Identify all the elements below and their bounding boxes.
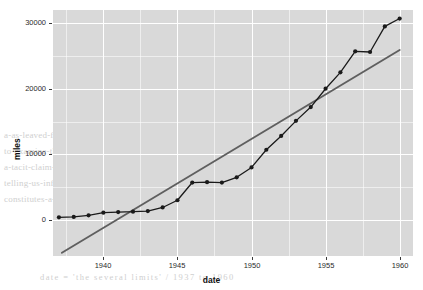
data-point [175,198,179,202]
trend-line [62,50,400,253]
data-point [86,213,90,217]
x-axis-title: date [0,275,423,285]
data-point [249,165,253,169]
data-point [398,16,402,20]
data-point [264,148,268,152]
data-point [205,180,209,184]
data-point [338,70,342,74]
data-point [368,50,372,54]
data-point [161,205,165,209]
data-point [294,119,298,123]
data-point [353,49,357,53]
y-axis-title: miles [12,138,22,160]
chart-root: a-as-leaved-for-reading-the-same-graphic… [0,0,423,290]
data-line [59,19,400,218]
data-point [383,24,387,28]
data-point [57,215,61,219]
data-point [190,180,194,184]
data-point [235,175,239,179]
data-point [309,105,313,109]
data-point [220,180,224,184]
data-point [101,211,105,215]
data-point [279,134,283,138]
data-point [131,210,135,214]
data-point [146,209,150,213]
data-point [323,87,327,91]
chart-plot-area [0,0,423,290]
data-point [72,215,76,219]
data-point [116,210,120,214]
